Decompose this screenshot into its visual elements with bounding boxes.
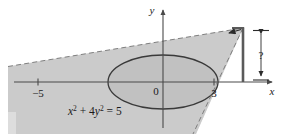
unknown-length-label: ? [259, 49, 264, 61]
x-axis-label: x [269, 85, 275, 97]
origin-label: 0 [153, 85, 159, 97]
figure-container: y x 0 −5 3 ? x2 + 4y2 = 5 [0, 0, 288, 134]
math-figure: y x 0 −5 3 ? x2 + 4y2 = 5 [0, 0, 288, 134]
x-tick-label-neg5: −5 [32, 87, 44, 99]
x-tick-label-3: 3 [211, 87, 217, 99]
eq-rhs: 5 [116, 105, 122, 117]
y-axis-label: y [149, 4, 155, 16]
region-fade [0, 112, 16, 134]
